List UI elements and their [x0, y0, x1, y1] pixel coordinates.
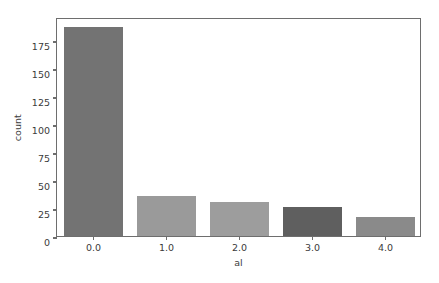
y-tick-mark	[53, 181, 57, 182]
x-tick-mark	[166, 236, 167, 240]
x-axis-label-text: al	[234, 257, 242, 268]
bar	[137, 196, 195, 236]
y-tick-mark	[53, 41, 57, 42]
bar-series	[57, 19, 420, 236]
bar	[64, 27, 122, 236]
y-tick-label: 125	[32, 98, 50, 108]
y-tick-label: 100	[32, 126, 50, 136]
y-tick-label: 25	[38, 210, 50, 220]
y-tick-mark	[53, 237, 57, 238]
y-tick-mark	[53, 125, 57, 126]
y-tick-label: 50	[38, 182, 50, 192]
y-tick-label: 0	[44, 238, 50, 248]
x-tick-label: 3.0	[305, 243, 320, 253]
y-tick-label: 75	[38, 154, 50, 164]
y-tick-mark	[53, 69, 57, 70]
bar	[210, 202, 268, 236]
x-tick-mark	[239, 236, 240, 240]
bar	[283, 207, 341, 236]
figure-canvas: count 0255075100125150175 0.01.02.03.04.…	[0, 0, 439, 283]
y-tick-mark	[53, 97, 57, 98]
x-tick-label: 1.0	[159, 243, 174, 253]
x-tick-mark	[312, 236, 313, 240]
x-axis-label: al	[56, 258, 421, 268]
x-tick-mark	[93, 236, 94, 240]
plot-area: 0255075100125150175 0.01.02.03.04.0	[56, 18, 421, 237]
x-tick-mark	[385, 236, 386, 240]
y-axis-label: count	[11, 18, 23, 237]
x-tick-label: 4.0	[378, 243, 393, 253]
y-tick-label: 175	[32, 42, 50, 52]
y-axis-label-text: count	[12, 114, 22, 141]
x-tick-label: 2.0	[232, 243, 247, 253]
y-tick-mark	[53, 153, 57, 154]
y-tick-mark	[53, 209, 57, 210]
x-tick-label: 0.0	[86, 243, 101, 253]
bar	[356, 217, 414, 236]
y-tick-label: 150	[32, 70, 50, 80]
